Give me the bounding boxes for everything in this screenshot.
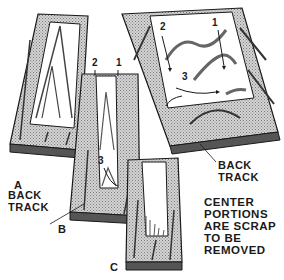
label-cut-top-1: 1: [212, 18, 218, 29]
label-cut-b-1: 1: [116, 58, 122, 69]
label-cut-top-2: 2: [160, 22, 166, 33]
label-cut-b-3: 3: [98, 156, 104, 167]
label-cut-top-3: 3: [182, 72, 188, 83]
board-c: [126, 158, 182, 270]
label-back-track-left: BACK TRACK: [8, 190, 49, 213]
label-board-b: B: [58, 224, 66, 236]
label-back-track-right: BACK TRACK: [218, 160, 259, 183]
label-board-c: C: [110, 262, 118, 274]
scrap-note: CENTER PORTIONS ARE SCRAP TO BE REMOVED: [204, 196, 276, 256]
board-top: [122, 8, 280, 154]
label-cut-b-2: 2: [92, 58, 98, 69]
